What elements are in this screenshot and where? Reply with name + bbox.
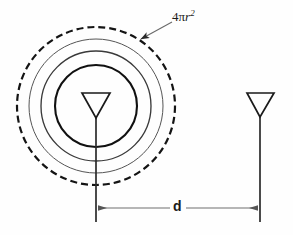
distance-label: d <box>170 199 185 213</box>
diagram-vector-layer <box>0 0 293 235</box>
receive-antenna-triangle <box>247 93 274 117</box>
transmitting-antenna <box>82 93 110 222</box>
sphere-area-label: 4πr2 <box>172 9 195 23</box>
figure-canvas: 4πr2 d <box>0 0 293 235</box>
sphere-area-leader-line <box>141 22 172 39</box>
receiving-antenna <box>247 93 274 222</box>
sphere-area-exponent: 2 <box>190 8 195 18</box>
transmit-antenna-triangle <box>82 93 110 118</box>
